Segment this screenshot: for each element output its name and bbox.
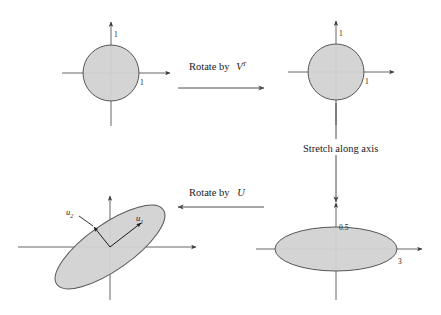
rotated-circle-shape bbox=[308, 44, 364, 100]
panel-top-right: 1 1 bbox=[288, 21, 394, 125]
vector-u2-label: u2 bbox=[66, 207, 73, 219]
rotate-vt-superscript: T bbox=[243, 60, 247, 67]
panel-bottom-right: 0.5 3 bbox=[256, 203, 422, 300]
svd-diagram-figure: 1 1 Rotate by VT 1 1 Stretch along axis bbox=[0, 0, 441, 315]
vector-u1-subscript: 1 bbox=[140, 219, 143, 225]
transition-rotate-u: Rotate by U bbox=[178, 187, 264, 207]
tick-label-x-top-right: 1 bbox=[365, 77, 369, 86]
tick-label-y-bottom-right: 0.5 bbox=[339, 223, 349, 232]
tick-label-x-bottom-right: 3 bbox=[398, 257, 402, 266]
diagram-canvas: 1 1 Rotate by VT 1 1 Stretch along axis bbox=[0, 0, 441, 315]
stretch-label: Stretch along axis bbox=[303, 143, 378, 154]
panel-top-left: 1 1 bbox=[62, 22, 170, 126]
rotate-u-label-text: Rotate by bbox=[189, 187, 230, 198]
transition-rotate-vt: Rotate by VT bbox=[178, 60, 264, 88]
transition-stretch: Stretch along axis bbox=[303, 103, 428, 202]
rotate-u-symbol: U bbox=[237, 187, 246, 198]
rotate-vt-label-text: Rotate by bbox=[189, 61, 230, 72]
vector-u2-subscript: 2 bbox=[70, 213, 73, 219]
stretched-ellipse-shape bbox=[275, 227, 397, 271]
rotate-u-label: Rotate by U bbox=[189, 187, 246, 198]
panel-bottom-left: u1 u2 bbox=[18, 191, 196, 303]
tick-label-x-top-left: 1 bbox=[140, 78, 144, 87]
rotate-vt-label: Rotate by VT bbox=[189, 60, 247, 72]
unit-circle-shape bbox=[83, 45, 139, 101]
tick-label-y-top-left: 1 bbox=[114, 30, 118, 39]
tick-label-y-top-right: 1 bbox=[339, 29, 343, 38]
vector-u2-leader bbox=[79, 216, 93, 226]
